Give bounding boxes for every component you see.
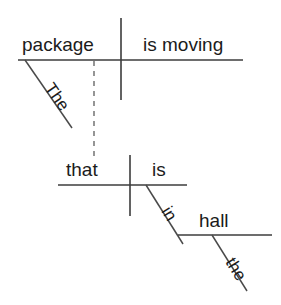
relative-clause-group: that is in xyxy=(58,155,187,244)
prepositional-object-group: hall the xyxy=(178,210,272,291)
modifier-the-hall-group: the xyxy=(212,235,250,291)
modifier-the-package-group: The xyxy=(25,60,73,128)
word-predicate-is-moving: is moving xyxy=(143,34,223,55)
word-subject-package: package xyxy=(22,34,94,55)
word-predicate-is: is xyxy=(152,159,166,180)
word-subject-that: that xyxy=(66,159,98,180)
word-object-hall: hall xyxy=(199,210,229,231)
word-modifier-the-package: The xyxy=(41,79,73,114)
sentence-diagram-canvas: package is moving The that is in h xyxy=(0,0,281,305)
word-preposition-in: in xyxy=(158,203,181,224)
preposition-in-group: in xyxy=(146,185,183,244)
sentence-diagram-svg: package is moving The that is in h xyxy=(0,0,281,305)
main-clause-group: package is moving The xyxy=(18,18,243,128)
